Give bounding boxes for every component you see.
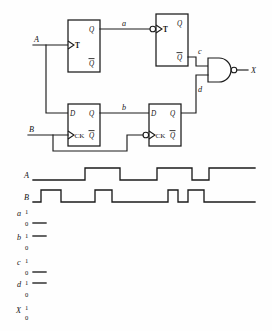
wave-row-x-level-low: 0 xyxy=(25,314,29,321)
d-flipflop-1-d-label: D xyxy=(69,110,76,118)
wave-a-trace xyxy=(33,168,255,180)
nand-gate-output-bubble-icon xyxy=(231,67,237,73)
wave-row-lc-c-level-high: 1 xyxy=(25,257,28,264)
net-c-wire: c xyxy=(188,47,208,66)
wave-row-lc-d-label: d xyxy=(17,280,22,289)
t-flipflop-1-q-label: Q xyxy=(89,26,95,34)
wave-row-lc-a-level-high: 1 xyxy=(25,208,28,215)
wire-net-d xyxy=(181,75,208,113)
wave-row-lc-d-level-low: 0 xyxy=(25,291,29,298)
net-b-wire: b xyxy=(100,103,149,113)
t-flipflop-2[interactable]: T Q Q xyxy=(150,14,188,66)
net-b-label: b xyxy=(122,103,126,112)
wave-row-lc-c-level-low: 0 xyxy=(25,269,29,276)
d-flipflop-2[interactable]: D Q CK Q xyxy=(143,104,181,146)
d-flipflop-1[interactable]: D Q CK Q xyxy=(68,104,100,146)
net-a-wire: a xyxy=(100,19,150,29)
net-a-label: a xyxy=(122,19,126,28)
circuit-timing-figure: A T Q Q a T Q Q xyxy=(0,0,272,331)
wave-row-lc-b-level-high: 1 xyxy=(25,232,28,239)
t-flipflop-1-type-label: T xyxy=(75,42,80,50)
d-flipflop-1-ck-label: CK xyxy=(75,132,85,140)
net-d-label: d xyxy=(198,85,203,94)
wire-a-branch-to-dff1 xyxy=(46,45,68,113)
wave-row-a: A xyxy=(23,168,255,180)
d-flipflop-2-qbar-label: Q xyxy=(170,132,176,140)
d-flipflop-2-q-label: Q xyxy=(170,110,176,118)
t-flipflop-1-qbar-label: Q xyxy=(89,60,95,68)
wave-row-lc-c: c 1 0 xyxy=(17,257,46,276)
d-flipflop-2-ck-label: CK xyxy=(156,132,166,140)
t-flipflop-2-qbar-label: Q xyxy=(177,54,183,62)
nand-gate-body xyxy=(208,58,231,82)
input-a-label: A xyxy=(33,35,40,44)
wave-b-trace xyxy=(33,190,255,202)
t-flipflop-2-clock-inversion-bubble-icon xyxy=(150,26,156,32)
wave-row-lc-a: a 1 0 xyxy=(17,208,46,227)
t-flipflop-2-q-label: Q xyxy=(177,20,183,28)
wave-row-a-label: A xyxy=(23,171,30,180)
wave-row-x-label: X xyxy=(15,306,22,315)
wave-row-lc-d: d 1 0 xyxy=(17,279,46,298)
nand-gate[interactable]: X xyxy=(208,58,257,82)
wave-row-b-label: B xyxy=(24,193,29,202)
net-c-label: c xyxy=(198,47,202,56)
wave-row-x: X 1 0 xyxy=(15,304,29,321)
wave-row-lc-b-label: b xyxy=(17,233,21,242)
input-a-net: A xyxy=(33,35,68,113)
d-flipflop-2-clock-inversion-bubble-icon xyxy=(143,132,149,138)
d-flipflop-2-d-label: D xyxy=(150,110,157,118)
t-flipflop-1[interactable]: T Q Q xyxy=(68,20,100,72)
output-x-label: X xyxy=(250,66,257,75)
wave-row-x-level-high: 1 xyxy=(25,304,28,311)
wire-net-c xyxy=(188,57,208,66)
wave-row-lc-c-label: c xyxy=(17,258,21,267)
d-flipflop-1-q-label: Q xyxy=(89,110,95,118)
net-d-wire: d xyxy=(181,75,208,113)
wave-row-lc-a-label: a xyxy=(17,209,21,218)
input-b-label: B xyxy=(29,125,34,134)
t-flipflop-2-body xyxy=(156,14,188,66)
wave-row-lc-b-level-low: 0 xyxy=(25,244,29,251)
wave-row-lc-a-level-low: 0 xyxy=(25,220,29,227)
wave-row-b: B xyxy=(24,190,255,202)
figure-root: A T Q Q a T Q Q xyxy=(0,0,272,331)
wave-row-lc-b: b 1 0 xyxy=(17,232,46,251)
t-flipflop-2-type-label: T xyxy=(163,26,168,34)
wave-row-lc-d-level-high: 1 xyxy=(25,279,28,286)
d-flipflop-1-qbar-label: Q xyxy=(89,132,95,140)
